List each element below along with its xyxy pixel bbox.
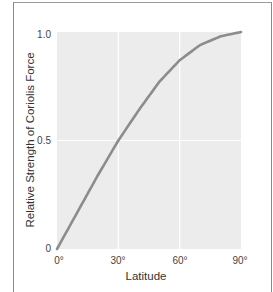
x-axis-title: Latitude xyxy=(126,270,167,282)
x-tick-30: 30° xyxy=(110,255,125,266)
y-axis-title: Relative Strength of Coriolis Force xyxy=(24,52,36,227)
y-tick-0-5: 0.5 xyxy=(37,135,51,146)
y-tick-1: 1.0 xyxy=(37,29,51,40)
x-tick-90: 90° xyxy=(232,255,247,266)
x-tick-60: 60° xyxy=(172,255,187,266)
y-tick-0: 0 xyxy=(45,243,51,254)
x-tick-0: 0° xyxy=(54,255,64,266)
